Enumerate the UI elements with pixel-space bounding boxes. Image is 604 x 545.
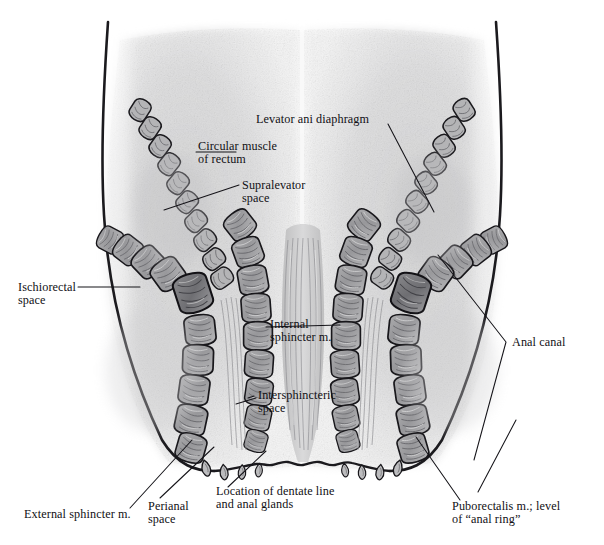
label-internal-sphincter-muscle: Internal sphincter m.: [270, 318, 331, 345]
label-intersphincteric-space: Intersphincteric space: [258, 389, 336, 416]
label-circular-muscle-of-rectum: Circular muscle of rectum: [198, 140, 277, 167]
anatomical-figure: Levator ani diaphragm Circular muscle of…: [0, 0, 604, 545]
label-external-sphincter-muscle: External sphincter m.: [24, 508, 131, 521]
anorectal-section-illustration: [0, 0, 604, 545]
label-supralevator-space: Supralevator space: [242, 179, 305, 206]
label-dentate-line-and-anal-glands: Location of dentate line and anal glands: [216, 485, 334, 512]
label-puborectalis-anal-ring: Puborectalis m.; level of “anal ring”: [452, 500, 560, 527]
label-levator-ani-diaphragm: Levator ani diaphragm: [256, 113, 369, 126]
label-anal-canal: Anal canal: [512, 336, 565, 349]
label-perianal-space: Perianal space: [148, 500, 189, 527]
label-ischiorectal-space: Ischiorectal space: [18, 281, 76, 308]
